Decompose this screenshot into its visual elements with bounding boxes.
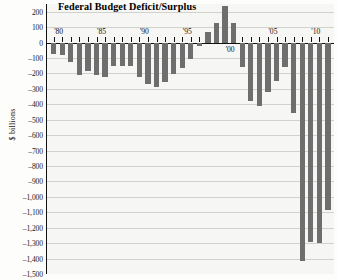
y-tick-label: –300: [28, 84, 43, 93]
bar: [171, 43, 176, 74]
x-tick: [294, 37, 295, 42]
bar: [205, 32, 210, 43]
bar: [282, 43, 287, 68]
x-tick: [114, 37, 115, 42]
x-tick: [302, 37, 303, 42]
x-tick-label: '85: [97, 27, 106, 36]
bar: [291, 43, 296, 114]
x-tick: [199, 37, 200, 42]
bar: [85, 43, 90, 72]
x-tick: [277, 37, 278, 42]
bar: [111, 43, 116, 66]
x-tick-label: '80: [54, 27, 63, 36]
x-tick: [259, 37, 260, 42]
bar: [248, 43, 253, 101]
x-tick-label: '05: [268, 27, 277, 36]
x-tick: [328, 37, 329, 42]
x-tick: [148, 37, 149, 42]
x-tick: [139, 37, 140, 42]
bar: [222, 6, 227, 42]
y-tick-label: –1,500: [23, 270, 43, 279]
bar: [94, 43, 99, 76]
chart-container: $ billions 2001000–100–200–300–400–500–6…: [0, 0, 337, 280]
x-tick: [242, 37, 243, 42]
bar: [265, 43, 270, 92]
bar: [197, 43, 202, 46]
x-tick: [62, 37, 63, 42]
x-tick: [131, 37, 132, 42]
gridline: [47, 151, 334, 152]
bar: [145, 43, 150, 85]
x-tick: [251, 37, 252, 42]
bar: [308, 43, 313, 243]
gridline: [47, 135, 334, 136]
gridline: [47, 228, 334, 229]
x-tick: [174, 37, 175, 42]
bar: [51, 43, 56, 54]
y-tick-label: 0: [39, 38, 43, 47]
x-tick: [54, 37, 55, 42]
plot-area: '80'85'90'95'00'05'10: [46, 4, 334, 274]
x-tick: [157, 37, 158, 42]
bar: [188, 43, 193, 60]
bar: [180, 43, 185, 68]
bar: [77, 43, 82, 75]
y-tick-label: –800: [28, 162, 43, 171]
gridline: [47, 197, 334, 198]
x-tick: [71, 37, 72, 42]
bar: [325, 43, 330, 211]
x-tick: [191, 37, 192, 42]
y-tick-label: –900: [28, 177, 43, 186]
x-tick: [165, 37, 166, 42]
x-tick: [97, 37, 98, 42]
x-tick: [268, 37, 269, 42]
bar: [128, 43, 133, 66]
gridline: [47, 243, 334, 244]
y-tick-label: 200: [32, 7, 43, 16]
y-tick-label: –1,300: [23, 239, 43, 248]
x-tick: [319, 37, 320, 42]
x-tick: [122, 37, 123, 42]
y-tick-label: –200: [28, 69, 43, 78]
y-tick-label: –1,400: [23, 254, 43, 263]
x-tick-label: '90: [140, 27, 149, 36]
x-tick-label: '95: [183, 27, 192, 36]
y-tick-label: –600: [28, 131, 43, 140]
bar: [60, 43, 65, 55]
bar: [68, 43, 73, 63]
bar: [231, 23, 236, 43]
x-tick-label: '00: [226, 45, 235, 54]
bar: [102, 43, 107, 77]
x-tick: [79, 37, 80, 42]
gridline: [47, 120, 334, 121]
bar: [162, 43, 167, 82]
bar: [300, 43, 305, 261]
gridline: [47, 259, 334, 260]
y-tick-label: –700: [28, 146, 43, 155]
gridline: [47, 212, 334, 213]
x-tick-label: '10: [311, 27, 320, 36]
x-tick: [88, 37, 89, 42]
gridline: [47, 181, 334, 182]
x-tick: [105, 37, 106, 42]
x-tick: [285, 37, 286, 42]
y-tick-label: –500: [28, 115, 43, 124]
y-tick-label: –1,100: [23, 208, 43, 217]
bar: [214, 23, 219, 42]
bar: [274, 43, 279, 81]
x-tick: [182, 37, 183, 42]
y-tick-label: –100: [28, 54, 43, 63]
gridline: [47, 166, 334, 167]
y-tick-label: –400: [28, 100, 43, 109]
y-tick-label: –1,000: [23, 192, 43, 201]
y-tick-label: –1,200: [23, 223, 43, 232]
bar: [317, 43, 322, 244]
bar: [257, 43, 262, 107]
bar: [240, 43, 245, 67]
y-tick-label: 100: [32, 23, 43, 32]
bar: [137, 43, 142, 77]
x-tick: [311, 37, 312, 42]
chart-title: Federal Budget Deficit/Surplus: [58, 1, 196, 12]
bar: [154, 43, 159, 88]
bar: [120, 43, 125, 67]
